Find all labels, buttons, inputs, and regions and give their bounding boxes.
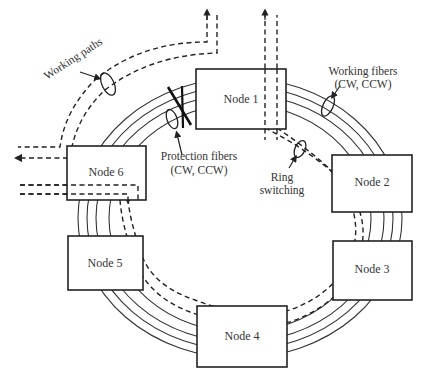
node-2-label: Node 2 [355, 175, 390, 189]
node-6: Node 6 [67, 146, 146, 200]
node-2: Node 2 [332, 155, 412, 212]
node-5: Node 5 [68, 236, 143, 290]
protection-fibers-label-line2: (CW, CCW) [170, 164, 227, 177]
node-4-label: Node 4 [225, 329, 260, 343]
node-4: Node 4 [197, 306, 287, 367]
protection-fibers-label-line1: Protection fibers [161, 150, 238, 162]
working-fibers-label-line1: Working fibers [328, 65, 398, 78]
node-1-label: Node 1 [224, 92, 259, 106]
ring-switching-marker [292, 139, 309, 160]
node-3: Node 3 [333, 241, 412, 300]
ring-switching-label-line1: Ring [271, 171, 294, 184]
node-1: Node 1 [196, 69, 286, 129]
working-paths-label: Working paths [42, 35, 106, 83]
node-5-label: Node 5 [88, 256, 123, 270]
ring-network-diagram: Node 1 Node 2 Node 3 Node 4 Node 5 Node … [0, 0, 421, 381]
node-3-label: Node 3 [355, 262, 390, 276]
ring-switching-label-line2: switching [260, 184, 305, 197]
working-fibers-label-line2: (CW, CCW) [334, 78, 391, 91]
node-6-label: Node 6 [89, 165, 124, 179]
fiber-cut-mark [168, 86, 191, 128]
ring-switching-paths [120, 128, 363, 324]
protection-fibers-marker [164, 108, 180, 130]
